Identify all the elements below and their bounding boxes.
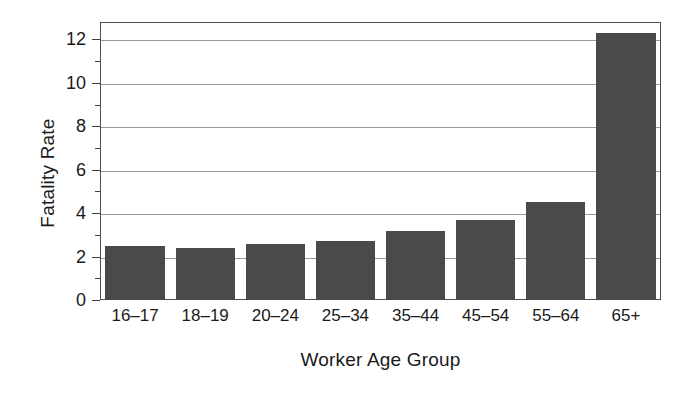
y-axis-tick-label: 8 xyxy=(40,117,86,135)
y-axis-major-tick xyxy=(92,83,100,84)
bar-chart: Fatality Rate 024681012 16–1718–1920–242… xyxy=(0,0,675,395)
y-axis-tick-label: 12 xyxy=(40,30,86,48)
x-axis-title: Worker Age Group xyxy=(100,349,661,371)
y-axis-tick-label: 0 xyxy=(40,291,86,309)
x-axis-tick-label: 45–54 xyxy=(451,306,521,326)
y-axis-tick-label: 2 xyxy=(40,248,86,266)
y-axis-major-tick xyxy=(92,257,100,258)
y-axis-major-tick xyxy=(92,126,100,127)
bars-layer xyxy=(100,22,661,300)
bar xyxy=(596,33,655,300)
bar xyxy=(456,220,515,300)
y-axis-minor-tick xyxy=(95,105,100,106)
bar xyxy=(316,241,375,300)
x-axis-tick-label: 65+ xyxy=(591,306,661,326)
y-axis-tick-labels: 024681012 xyxy=(40,22,86,300)
y-axis-major-tick xyxy=(92,300,100,301)
bar xyxy=(105,246,164,300)
x-axis-tick-label: 35–44 xyxy=(381,306,451,326)
bar xyxy=(246,244,305,300)
x-axis-tick-label: 18–19 xyxy=(170,306,240,326)
y-axis-major-tick xyxy=(92,170,100,171)
bar xyxy=(386,231,445,301)
y-axis-major-tick xyxy=(92,39,100,40)
x-axis-tick-label: 55–64 xyxy=(521,306,591,326)
x-axis-tick-labels: 16–1718–1920–2425–3435–4445–5455–6465+ xyxy=(100,306,661,332)
y-axis-tick-label: 4 xyxy=(40,204,86,222)
y-axis-minor-tick xyxy=(95,235,100,236)
y-axis-tick-label: 10 xyxy=(40,74,86,92)
y-axis-minor-tick xyxy=(95,148,100,149)
y-axis-minor-tick xyxy=(95,278,100,279)
bar xyxy=(176,248,235,300)
y-axis-major-tick xyxy=(92,213,100,214)
x-axis-tick-label: 16–17 xyxy=(100,306,170,326)
bar xyxy=(526,202,585,300)
x-axis-tick-label: 25–34 xyxy=(310,306,380,326)
y-axis-tick-label: 6 xyxy=(40,161,86,179)
y-axis-minor-tick xyxy=(95,191,100,192)
x-axis-tick-label: 20–24 xyxy=(240,306,310,326)
y-axis-minor-tick xyxy=(95,61,100,62)
